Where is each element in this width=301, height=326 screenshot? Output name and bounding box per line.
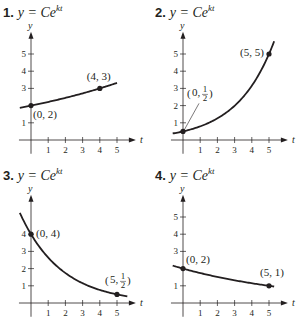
- y-axis-arrow-icon: [29, 195, 34, 202]
- data-point: [114, 292, 119, 297]
- y-tick-label: 2: [174, 101, 179, 111]
- x-tick-label: 5: [115, 308, 120, 318]
- x-tick-label: 1: [46, 145, 51, 155]
- data-point: [180, 129, 185, 134]
- x-tick-label: 2: [215, 145, 220, 155]
- x-tick-label: 1: [198, 145, 203, 155]
- y-tick-label: 4: [22, 229, 27, 239]
- graph-panel-4: 4.y = Cekt ty123451345(0, 2)(5, 1): [152, 163, 301, 326]
- x-tick-label: 3: [232, 145, 237, 155]
- x-tick-label: 2: [215, 308, 220, 318]
- graph-panel-1: 1.y = Cekt ty123451345(0, 2)(4, 3): [0, 0, 150, 163]
- x-tick-label: 4: [98, 308, 103, 318]
- t-axis-arrow-icon: [281, 138, 288, 143]
- exponential-curve: [173, 266, 274, 287]
- y-axis-arrow-icon: [181, 195, 186, 202]
- x-tick-label: 4: [250, 145, 255, 155]
- y-tick-label: 4: [22, 66, 27, 76]
- point-label: (0, 2): [186, 253, 210, 266]
- t-axis-label: t: [292, 134, 295, 145]
- y-tick-label: 5: [174, 49, 179, 59]
- y-tick-label: 1: [22, 281, 27, 291]
- x-tick-label: 4: [250, 308, 255, 318]
- point-label: (0, 4): [36, 227, 60, 240]
- y-axis-label: y: [27, 183, 33, 194]
- paren-close: ): [209, 87, 213, 100]
- point-label: (5, 5): [240, 46, 264, 59]
- point-x: 0,: [192, 86, 201, 98]
- x-tick-label: 3: [80, 145, 85, 155]
- t-axis-arrow-icon: [129, 301, 136, 306]
- t-axis-label: t: [292, 297, 295, 308]
- t-axis-arrow-icon: [281, 301, 288, 306]
- y-tick-label: 1: [174, 118, 179, 128]
- graph-1: ty123451345(0, 2)(4, 3): [0, 0, 150, 163]
- x-tick-label: 2: [63, 145, 68, 155]
- x-tick-label: 3: [80, 308, 85, 318]
- data-point: [266, 283, 271, 288]
- y-tick-label: 2: [22, 264, 27, 274]
- y-tick-label: 5: [174, 212, 179, 222]
- data-point: [180, 266, 185, 271]
- y-axis-label: y: [179, 183, 185, 194]
- paren-open: (: [105, 274, 109, 287]
- point-x: 5,: [110, 273, 119, 285]
- y-tick-label: 1: [22, 118, 27, 128]
- x-tick-label: 5: [267, 308, 272, 318]
- t-axis-label: t: [140, 134, 143, 145]
- y-tick-label: 3: [22, 83, 27, 93]
- y-tick-label: 3: [174, 246, 179, 256]
- point-label: (0, 2): [33, 108, 57, 121]
- y-axis-arrow-icon: [29, 32, 34, 39]
- x-tick-label: 3: [232, 308, 237, 318]
- data-point: [97, 86, 102, 91]
- graph-2: ty1234512345(0,12)(5, 5): [152, 0, 301, 163]
- y-tick-label: 4: [174, 229, 179, 239]
- y-axis-label: y: [27, 20, 33, 31]
- x-tick-label: 4: [98, 145, 103, 155]
- data-point: [266, 51, 271, 56]
- t-axis-arrow-icon: [129, 138, 136, 143]
- paren-close: ): [127, 274, 131, 287]
- frac-den: 2: [203, 93, 208, 103]
- graph-3: ty123451234(0, 4)(5,12): [0, 163, 150, 326]
- y-tick-label: 1: [174, 281, 179, 291]
- point-label: (5,12): [105, 271, 131, 290]
- x-tick-label: 1: [46, 308, 51, 318]
- y-tick-label: 3: [174, 83, 179, 93]
- graph-panel-2: 2.y = Cekt ty1234512345(0,12)(5, 5): [152, 0, 301, 163]
- t-axis-label: t: [140, 297, 143, 308]
- graph-panel-3: 3.y = Cekt ty123451234(0, 4)(5,12): [0, 163, 150, 326]
- paren-open: (: [187, 87, 191, 100]
- data-point: [28, 232, 33, 237]
- graph-4: ty123451345(0, 2)(5, 1): [152, 163, 301, 326]
- point-label: (0,12): [187, 84, 213, 103]
- point-label: (4, 3): [87, 70, 111, 83]
- point-label: (5, 1): [260, 266, 284, 279]
- exponential-curve: [20, 83, 117, 108]
- y-axis-label: y: [179, 20, 185, 31]
- frac-den: 2: [121, 280, 126, 290]
- y-tick-label: 5: [22, 49, 27, 59]
- y-tick-label: 4: [174, 66, 179, 76]
- x-tick-label: 2: [63, 308, 68, 318]
- x-tick-label: 1: [198, 308, 203, 318]
- x-tick-label: 5: [115, 145, 120, 155]
- y-tick-label: 3: [22, 246, 27, 256]
- y-axis-arrow-icon: [181, 32, 186, 39]
- x-tick-label: 5: [267, 145, 272, 155]
- leader-line: [184, 103, 199, 130]
